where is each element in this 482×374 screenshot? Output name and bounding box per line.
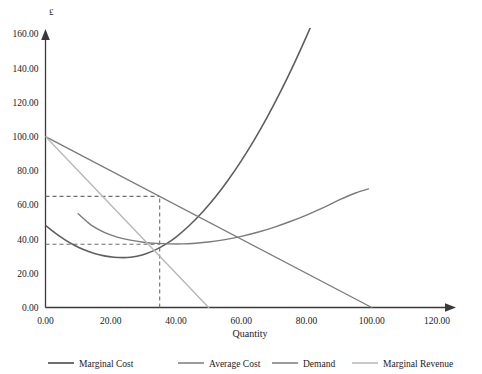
x-axis-arrow-icon [445,303,456,312]
x-tick-label: 20.00 [100,316,122,326]
legend-label-average-cost: Average Cost [209,359,261,369]
series-curves [46,0,372,308]
y-tick-label: 60.00 [17,200,39,210]
y-tick-label: 140.00 [12,64,38,74]
y-tick-label: 80.00 [17,166,39,176]
chart-container: 0.0020.0040.0060.0080.00100.00120.00140.… [0,0,482,374]
legend-label-demand: Demand [303,359,335,369]
series-demand [46,137,372,308]
x-tick-label: 80.00 [296,316,318,326]
x-tick-label: 0.00 [37,316,54,326]
chart-legend: Marginal CostAverage CostDemandMarginal … [48,359,453,369]
legend-label-marginal-cost: Marginal Cost [79,359,134,369]
axis-lines [41,29,456,312]
y-tick-label: 100.00 [12,132,38,142]
guide-lines [46,196,160,307]
x-axis-title: Quantity [233,328,268,339]
x-axis-tick-labels: 0.0020.0040.0060.0080.00100.00120.00 [37,316,450,326]
x-tick-label: 60.00 [231,316,253,326]
x-tick-label: 40.00 [165,316,187,326]
y-tick-label: 0.00 [22,303,39,313]
legend-label-marginal-revenue: Marginal Revenue [383,359,453,369]
y-axis-tick-labels: 0.0020.0040.0060.0080.00100.00120.00140.… [12,29,38,313]
economics-cost-revenue-chart: 0.0020.0040.0060.0080.00100.00120.00140.… [0,0,482,374]
series-marginal-cost [46,0,349,258]
y-tick-label: 40.00 [17,235,39,245]
y-axis-title: £ [49,7,54,17]
y-tick-label: 120.00 [12,98,38,108]
x-tick-label: 100.00 [359,316,385,326]
y-axis-arrow-icon [41,29,50,40]
y-tick-label: 20.00 [17,269,39,279]
series-marginal-revenue [46,137,209,308]
y-tick-label: 160.00 [12,29,38,39]
x-tick-label: 120.00 [424,316,450,326]
